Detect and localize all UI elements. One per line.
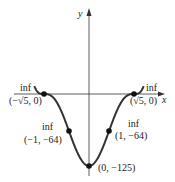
point-neg-1 [66,128,72,134]
label-left-zero-coord: (−√5, 0) [9,95,42,107]
y-axis-label: y [77,8,83,19]
label-left-inflect-coord: (−1, −64) [24,134,62,146]
point-neg-sqrt5 [41,91,47,97]
y-axis-arrow-icon [87,8,92,16]
label-right-zero-coord: (√5, 0) [130,95,157,107]
point-minimum [86,163,92,169]
chart: x y inf (−√5, 0) inf (√5, 0) inf (−1, −6… [0,0,175,182]
point-pos-1 [106,128,112,134]
label-right-inflect-coord: (1, −64) [115,130,147,142]
label-right-inflect-tag: inf [128,118,140,129]
label-left-zero-tag: inf [20,82,32,93]
label-minimum-coord: (0, −125) [98,162,135,174]
label-right-zero-tag: inf [146,82,158,93]
x-axis-label: x [161,94,167,105]
label-left-inflect-tag: inf [42,121,54,132]
